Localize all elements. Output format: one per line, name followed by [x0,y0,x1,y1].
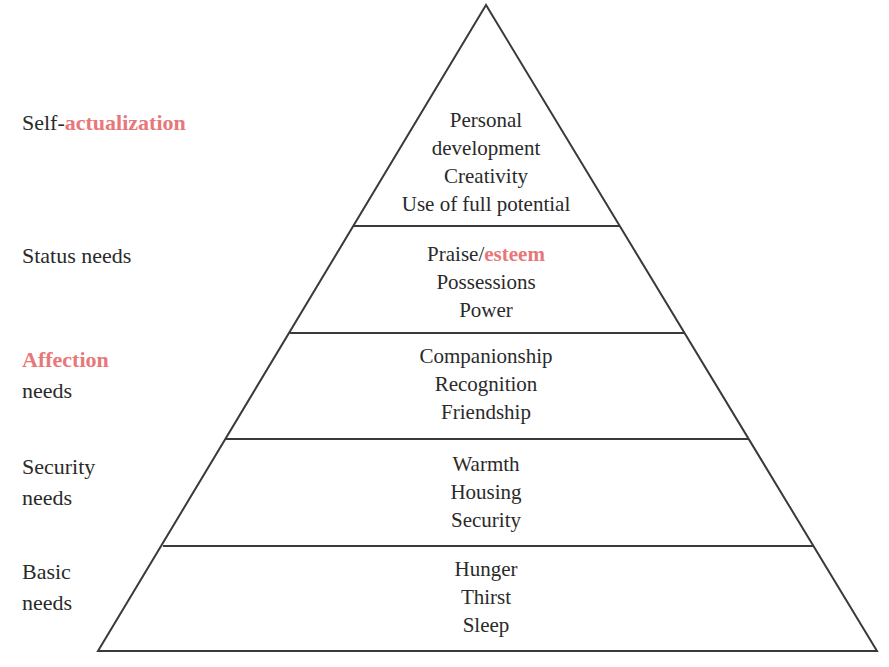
tier-item: Security [336,506,636,534]
label-affection-needs: Affection needs [22,344,109,406]
tier-item: development [336,134,636,162]
label-security-line2: needs [22,482,95,513]
label-affection-needs-line: needs [22,375,109,406]
tier-item: Companionship [336,342,636,370]
tier-item: Friendship [336,398,636,426]
tier-item-esteem-accent: esteem [484,242,545,266]
tier-item: Warmth [336,450,636,478]
tier-item: Sleep [336,611,636,639]
tier-self-actualization-items: Personal development Creativity Use of f… [336,106,636,218]
label-self-actualization-prefix: Self- [22,110,65,135]
tier-item-praise-esteem: Praise/esteem [336,240,636,268]
label-status-needs: Status needs [22,240,131,271]
tier-item: Creativity [336,162,636,190]
tier-security-items: Warmth Housing Security [336,450,636,534]
tier-item: Recognition [336,370,636,398]
tier-item: Personal [336,106,636,134]
label-self-actualization: Self-actualization [22,107,186,138]
tier-item: Hunger [336,555,636,583]
tier-basic-items: Hunger Thirst Sleep [336,555,636,639]
label-basic-needs: Basic needs [22,556,72,618]
label-affection-accent: Affection [22,344,109,375]
tier-item: Use of full potential [336,190,636,218]
tier-item: Thirst [336,583,636,611]
label-status-needs-text: Status needs [22,243,131,268]
label-basic-line1: Basic [22,556,72,587]
tier-item: Possessions [336,268,636,296]
label-self-actualization-accent: actualization [65,110,186,135]
tier-status-items: Praise/esteem Possessions Power [336,240,636,324]
label-security-needs: Security needs [22,451,95,513]
tier-item: Power [336,296,636,324]
label-security-line1: Security [22,451,95,482]
tier-item: Housing [336,478,636,506]
tier-affection-items: Companionship Recognition Friendship [336,342,636,426]
label-basic-line2: needs [22,587,72,618]
tier-item-praise: Praise/ [427,242,484,266]
